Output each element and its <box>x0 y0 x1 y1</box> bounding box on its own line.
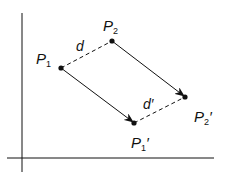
label-p2: P2 <box>103 17 118 36</box>
label-p1: P1 <box>36 50 51 69</box>
segment-d-prime <box>134 97 185 123</box>
arrow-p2-to-p2prime <box>112 41 184 96</box>
point-p1 <box>58 65 63 70</box>
label-d: d <box>76 38 85 54</box>
point-p2-prime <box>182 94 187 99</box>
label-p2-prime: P2′ <box>194 108 213 127</box>
label-d-prime: d′ <box>143 96 155 112</box>
translation-diagram: P1 P2 P1′ P2′ d d′ <box>0 0 231 176</box>
arrow-p1-to-p1prime <box>61 68 133 122</box>
point-p2 <box>109 38 114 43</box>
label-p1-prime: P1′ <box>131 134 150 153</box>
segment-d <box>61 41 112 68</box>
point-p1-prime <box>131 120 136 125</box>
